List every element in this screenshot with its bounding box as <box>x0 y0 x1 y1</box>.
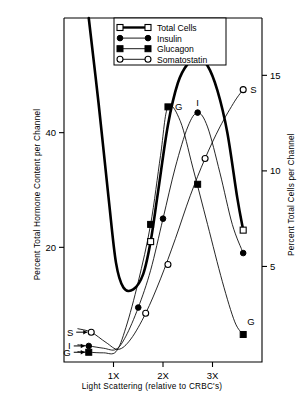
annotation-label-s: S <box>67 327 73 338</box>
data-point-somatostatin <box>240 87 246 93</box>
data-point-total-cells <box>240 227 246 233</box>
annotation-arrow-head <box>81 350 85 355</box>
y-axis-right-title: Percent Total Cells per Channel <box>287 80 296 310</box>
x-tick-label: 2X <box>157 370 169 381</box>
annotation-label-g: G <box>63 347 70 358</box>
legend-marker-somatostatin <box>117 56 123 62</box>
legend-label-glucagon: Glucagon <box>157 44 194 54</box>
plot-annotations: GISGSIG <box>63 84 256 357</box>
legend-label-insulin: Insulin <box>157 34 182 44</box>
x-axis-title: Light Scattering (relative to CRBC's) <box>0 382 304 391</box>
data-point-somatostatin <box>202 155 208 161</box>
y-tick-label-right: 10 <box>270 165 281 176</box>
legend-marker-total-cells <box>145 25 151 31</box>
legend-label-total-cells: Total Cells <box>157 23 197 33</box>
annotation-arrow-head <box>81 344 85 349</box>
data-point-glucagon <box>195 181 201 187</box>
chart-plot-area: GISGSIG Total CellsInsulinGlucagonSomato… <box>0 0 304 402</box>
y-tick-label-right: 5 <box>270 261 275 272</box>
data-point-somatostatin <box>165 262 171 268</box>
data-point-somatostatin <box>88 329 94 335</box>
x-tick-label: 3X <box>207 370 219 381</box>
legend-marker-insulin <box>145 35 151 41</box>
data-point-insulin <box>240 250 246 256</box>
annotation-label-i: I <box>196 97 199 108</box>
legend-label-somatostatin: Somatostatin <box>157 55 207 65</box>
legend-marker-glucagon <box>145 46 151 52</box>
data-point-glucagon <box>148 221 154 227</box>
data-point-somatostatin <box>143 310 149 316</box>
annotation-label-s: S <box>250 84 256 95</box>
data-point-total-cells <box>148 239 154 245</box>
data-point-insulin <box>195 110 201 116</box>
data-point-insulin <box>135 305 141 311</box>
data-point-glucagon <box>240 331 246 337</box>
data-point-glucagon <box>165 104 171 110</box>
y-tick-label-left: 20 <box>45 242 56 253</box>
legend-marker-insulin <box>117 35 123 41</box>
x-tick-label: 1X <box>108 370 120 381</box>
chart-figure: GISGSIG Total CellsInsulinGlucagonSomato… <box>0 0 304 402</box>
data-point-insulin <box>160 216 166 222</box>
legend-marker-somatostatin <box>145 56 151 62</box>
y-tick-label-right: 15 <box>270 70 281 81</box>
y-tick-label-left: 40 <box>45 127 56 138</box>
data-series-group <box>78 18 243 354</box>
data-point-insulin <box>86 343 92 349</box>
chart-legend: Total CellsInsulinGlucagonSomatostatin <box>114 18 226 65</box>
annotation-label-g: G <box>175 101 182 112</box>
data-point-glucagon <box>86 349 92 355</box>
legend-marker-glucagon <box>117 46 123 52</box>
legend-marker-total-cells <box>117 25 123 31</box>
annotation-label-g: G <box>247 316 254 327</box>
y-axis-left-title: Percent Total Hormone Content per Channe… <box>33 80 42 310</box>
